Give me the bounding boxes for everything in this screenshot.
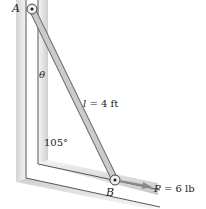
label-point-b: B: [105, 186, 114, 199]
label-force: P = 6 lb: [153, 183, 195, 194]
label-length: l = 4 ft: [83, 98, 118, 109]
label-point-a: A: [11, 2, 20, 15]
pin-a: [27, 4, 37, 14]
label-angle-theta: θ: [39, 69, 45, 80]
mechanism-diagram: A θ l = 4 ft 105° B P = 6 lb: [0, 0, 206, 209]
label-corner-angle: 105°: [44, 137, 68, 148]
pin-b: [110, 175, 120, 185]
